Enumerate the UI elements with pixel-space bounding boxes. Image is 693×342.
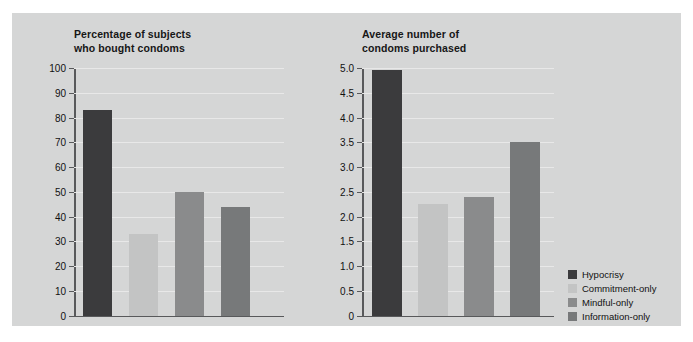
y-axis-tick — [69, 142, 74, 143]
gridline — [74, 93, 284, 94]
y-axis-tick-label: 3.0 — [340, 162, 354, 173]
y-axis-tick-label: 50 — [55, 186, 66, 197]
plot-area-left: 1009080706050403020100 — [74, 68, 284, 317]
y-axis-tick-label: 100 — [49, 63, 66, 74]
y-axis-tick — [69, 241, 74, 242]
bar-commitment-only — [129, 234, 158, 316]
legend-swatch-icon — [568, 270, 577, 279]
chart-average-purchased: Average number of condoms purchased 5.04… — [300, 13, 550, 326]
bar-hypocrisy — [83, 110, 112, 315]
y-axis-tick — [357, 291, 362, 292]
y-axis-tick-label: 1.0 — [340, 261, 354, 272]
y-axis-tick-label: 0.5 — [340, 285, 354, 296]
y-axis-tick-label: 10 — [55, 285, 66, 296]
x-axis-line — [362, 316, 554, 318]
y-axis-tick — [357, 192, 362, 193]
y-axis-tick — [69, 291, 74, 292]
y-axis-tick — [69, 93, 74, 94]
bar-commitment-only — [418, 204, 448, 315]
y-axis-tick — [357, 241, 362, 242]
y-axis-tick — [69, 68, 74, 69]
chart-title: Percentage of subjects who bought condom… — [74, 27, 191, 55]
y-axis-tick — [357, 93, 362, 94]
bar-hypocrisy — [372, 70, 402, 315]
y-axis-tick — [69, 266, 74, 267]
y-axis-tick-label: 5.0 — [340, 63, 354, 74]
y-axis-tick — [69, 167, 74, 168]
y-axis-tick-label: 60 — [55, 162, 66, 173]
legend-item-label: Hypocrisy — [582, 269, 624, 280]
y-axis-tick-label: 3.5 — [340, 137, 354, 148]
y-axis-tick-label: 2.5 — [340, 186, 354, 197]
legend-swatch-icon — [568, 312, 577, 321]
legend-swatch-icon — [568, 298, 577, 307]
legend-item-label: Information-only — [582, 311, 650, 322]
y-axis-tick-label: 40 — [55, 211, 66, 222]
legend: HypocrisyCommitment-onlyMindful-onlyInfo… — [568, 268, 688, 324]
y-axis-tick-label: 2.0 — [340, 211, 354, 222]
y-axis-tick-label: 70 — [55, 137, 66, 148]
gridline — [74, 68, 284, 69]
bar-information-only — [510, 142, 540, 315]
legend-item: Commitment-only — [568, 282, 688, 295]
bar-mindful-only — [464, 197, 494, 316]
figure-panel: Percentage of subjects who bought condom… — [12, 13, 681, 326]
y-axis-tick — [357, 316, 362, 317]
y-axis-tick — [69, 316, 74, 317]
y-axis-tick-label: 20 — [55, 261, 66, 272]
y-axis-tick-label: 0 — [348, 310, 354, 321]
y-axis-tick — [69, 217, 74, 218]
legend-item: Mindful-only — [568, 296, 688, 309]
y-axis-tick — [357, 142, 362, 143]
y-axis-tick-label: 4.5 — [340, 87, 354, 98]
y-axis-tick-label: 30 — [55, 236, 66, 247]
chart-percentage-bought: Percentage of subjects who bought condom… — [12, 13, 300, 326]
y-axis-tick-label: 90 — [55, 87, 66, 98]
x-axis-line — [74, 316, 284, 318]
y-axis-tick — [357, 266, 362, 267]
y-axis-tick — [69, 192, 74, 193]
legend-item-label: Mindful-only — [582, 297, 633, 308]
y-axis-tick — [357, 118, 362, 119]
y-axis-tick — [357, 68, 362, 69]
legend-item-label: Commitment-only — [582, 283, 656, 294]
y-axis-tick-label: 1.5 — [340, 236, 354, 247]
y-axis-tick — [357, 217, 362, 218]
legend-item: Information-only — [568, 310, 688, 323]
legend-item: Hypocrisy — [568, 268, 688, 281]
plot-area-right: 5.04.54.03.53.02.52.01.51.00.50 — [362, 68, 554, 317]
bar-information-only — [221, 207, 250, 316]
y-axis-tick-label: 80 — [55, 112, 66, 123]
y-axis-tick-label: 0 — [60, 310, 66, 321]
y-axis-tick — [69, 118, 74, 119]
y-axis-tick — [357, 167, 362, 168]
gridline — [362, 68, 554, 69]
y-axis-tick-label: 4.0 — [340, 112, 354, 123]
legend-swatch-icon — [568, 284, 577, 293]
chart-title: Average number of condoms purchased — [362, 27, 466, 55]
bar-mindful-only — [175, 192, 204, 316]
